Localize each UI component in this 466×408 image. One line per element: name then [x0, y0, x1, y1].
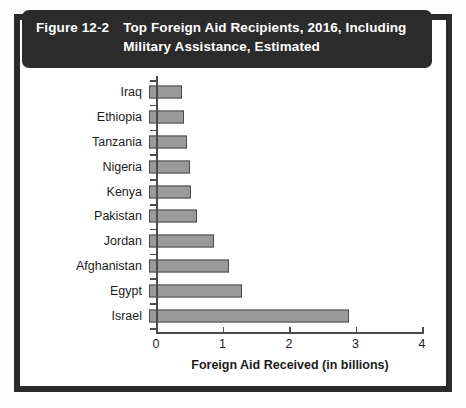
- y-axis-tick: [150, 179, 156, 181]
- chart-plot-area: IraqEthiopiaTanzaniaNigeriaKenyaPakistan…: [22, 76, 444, 386]
- bar: [149, 135, 187, 148]
- bar-row: Iraq: [22, 80, 444, 105]
- y-axis-tick: [150, 105, 156, 107]
- bar-track: [149, 80, 415, 105]
- figure-container: Figure 12-2 Top Foreign Aid Recipients, …: [0, 0, 466, 408]
- bar-row: Afghanistan: [22, 254, 444, 279]
- bar-track: [149, 229, 415, 254]
- bar-row: Israel: [22, 303, 444, 328]
- bar-track: [149, 303, 415, 328]
- y-axis-tick: [150, 130, 156, 132]
- figure-title: Top Foreign Aid Recipients, 2016, Includ…: [123, 19, 418, 56]
- x-axis-tick: [422, 327, 424, 333]
- x-axis-tick: [289, 327, 291, 333]
- figure-number: Figure 12-2: [36, 19, 109, 38]
- bar: [149, 235, 214, 248]
- bar-row: Ethiopia: [22, 105, 444, 130]
- bar-category-label: Egypt: [22, 284, 149, 298]
- x-axis-title: Foreign Aid Received (in billions): [156, 358, 424, 372]
- bar: [149, 309, 349, 322]
- bar-row: Nigeria: [22, 154, 444, 179]
- bar-category-label: Pakistan: [22, 209, 149, 223]
- bar-category-label: Nigeria: [22, 160, 149, 174]
- bar-category-label: Jordan: [22, 234, 149, 248]
- y-axis-tick: [150, 204, 156, 206]
- figure-header-banner: Figure 12-2 Top Foreign Aid Recipients, …: [22, 10, 432, 68]
- bar-track: [149, 130, 415, 155]
- bar-track: [149, 154, 415, 179]
- y-axis-tick: [150, 80, 156, 82]
- x-axis-tick: [223, 327, 225, 333]
- bar-row: Kenya: [22, 179, 444, 204]
- bar-track: [149, 254, 415, 279]
- x-axis-tick: [156, 327, 158, 333]
- y-axis-tick: [150, 303, 156, 305]
- bar-track: [149, 278, 415, 303]
- y-axis-tick: [150, 254, 156, 256]
- bar-category-label: Afghanistan: [22, 259, 149, 273]
- bar-track: [149, 105, 415, 130]
- bar-track: [149, 179, 415, 204]
- bar-rows: IraqEthiopiaTanzaniaNigeriaKenyaPakistan…: [22, 80, 444, 328]
- y-axis-tick: [150, 278, 156, 280]
- bar-category-label: Israel: [22, 309, 149, 323]
- x-axis-tick-label: 2: [286, 337, 293, 351]
- x-axis-tick-label: 4: [419, 337, 426, 351]
- bar: [149, 284, 242, 297]
- bar-track: [149, 204, 415, 229]
- y-axis-tick: [150, 154, 156, 156]
- bar: [149, 259, 229, 272]
- bar-row: Tanzania: [22, 130, 444, 155]
- x-axis-tick-label: 3: [352, 337, 359, 351]
- bar-category-label: Kenya: [22, 185, 149, 199]
- x-axis-tick-label: 0: [153, 337, 160, 351]
- bar-category-label: Iraq: [22, 85, 149, 99]
- bar-category-label: Tanzania: [22, 135, 149, 149]
- bar-row: Pakistan: [22, 204, 444, 229]
- bar-row: Jordan: [22, 229, 444, 254]
- bar-category-label: Ethiopia: [22, 110, 149, 124]
- bar: [149, 111, 184, 124]
- bar-row: Egypt: [22, 278, 444, 303]
- x-axis-tick: [356, 327, 358, 333]
- bar: [149, 86, 182, 99]
- y-axis-tick: [150, 229, 156, 231]
- y-axis-line: [156, 76, 158, 328]
- x-axis-tick-label: 1: [219, 337, 226, 351]
